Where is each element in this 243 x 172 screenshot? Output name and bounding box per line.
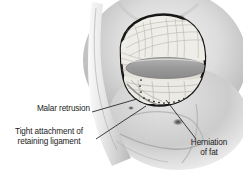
cheek-shadow-spot xyxy=(173,118,184,125)
label-retaining-ligament-line-1: Tight attachment of xyxy=(2,127,96,137)
label-malar-retrusion: Malar retrusion xyxy=(6,104,90,114)
label-retaining-ligament-line-2: retaining ligament xyxy=(2,137,96,147)
label-malar-retrusion-line-1: Malar retrusion xyxy=(6,104,90,114)
label-herniation-of-fat: Herniation of fat xyxy=(180,138,238,157)
malar-marker-dot xyxy=(128,106,134,110)
label-tight-attachment-retaining-ligament: Tight attachment of retaining ligament xyxy=(2,127,96,146)
label-herniation-of-fat-line-2: of fat xyxy=(180,148,238,158)
label-herniation-of-fat-line-1: Herniation xyxy=(180,138,238,148)
figure-canvas: Malar retrusion Tight attachment of reta… xyxy=(0,0,243,172)
orbital-dissection-window xyxy=(118,15,208,106)
